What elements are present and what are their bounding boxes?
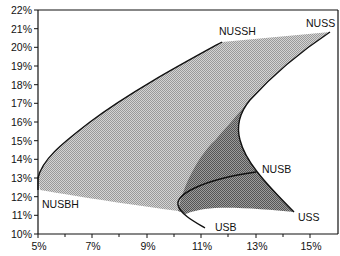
y-tick-label: 21% [11,23,32,35]
y-tick-label: 22% [11,4,32,16]
chart-canvas: 22% 21% 20% 19% 18% 17% 16% 15% 14% 13% … [0,0,340,256]
y-tick-label: 15% [11,135,32,147]
x-tick-label: 9% [140,240,155,252]
x-tick-label: 5% [31,240,46,252]
y-tick-label: 18% [11,79,32,91]
y-tick-label: 12% [11,191,32,203]
x-tick-labels: 5% 7% 9% 11% 13% 15% [31,240,321,252]
y-tick-label: 11% [12,209,32,221]
y-tick-label: 14% [11,153,32,165]
usb-label: USB [215,221,237,233]
efficient-frontier-chart: 22% 21% 20% 19% 18% 17% 16% 15% 14% 13% … [0,0,340,256]
x-ticks [38,234,310,238]
nusbh-label: NUSBH [42,198,79,210]
x-tick-label: 7% [85,240,100,252]
x-tick-label: 11% [192,240,212,252]
uss-label: USS [298,211,320,223]
y-tick-label: 20% [11,41,32,53]
y-tick-label: 19% [11,60,32,72]
nuss-label: NUSS [306,17,335,29]
y-tick-label: 17% [11,97,32,109]
x-tick-label: 13% [246,240,267,252]
y-tick-label: 10% [11,228,32,240]
y-tick-label: 16% [11,116,32,128]
x-tick-label: 15% [300,240,321,252]
y-tick-labels: 22% 21% 20% 19% 18% 17% 16% 15% 14% 13% … [11,4,32,240]
nussh-label: NUSSH [219,25,256,37]
y-tick-label: 13% [11,172,32,184]
light-shaded-region [38,32,330,211]
nusb-label: NUSB [262,163,291,175]
